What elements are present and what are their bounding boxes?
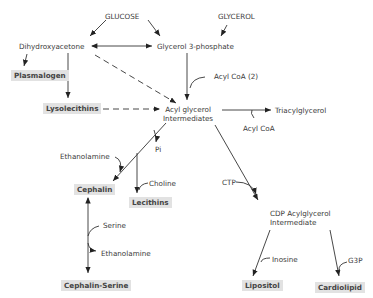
node-plasmalogen: Plasmalogen	[11, 70, 69, 81]
cofactor-acyl-coa: Acyl CoA	[243, 124, 275, 133]
node-triacylglycerol: Triacylglycerol	[275, 106, 326, 115]
node-glycerol: GLYCEROL	[218, 12, 255, 21]
node-dihydroxyacetone: Dihydroxyacetone	[19, 42, 84, 51]
cofactor-acyl-coa-2: Acyl CoA (2)	[214, 72, 258, 81]
node-glycerol-3-phosphate: Glycerol 3-phosphate	[157, 42, 234, 51]
cofactor-pi: Pi	[155, 145, 161, 154]
cofactor-choline: Choline	[149, 179, 176, 188]
node-lipositol: Lipositol	[242, 280, 283, 291]
node-lysolecithins: Lysolecithins	[43, 103, 101, 114]
node-cephalin: Cephalin	[74, 184, 115, 195]
node-cdp-acylglycerol-intermediate: CDP Acylglycerol Intermediate	[270, 209, 331, 227]
node-lecithins: Lecithins	[129, 197, 172, 208]
cofactor-ctp: CTP	[222, 178, 236, 187]
node-glucose: GLUCOSE	[105, 12, 139, 21]
node-cardiolipid: Cardiolipid	[315, 282, 365, 293]
cofactor-inosine: Inosine	[272, 255, 298, 264]
node-cephalin-serine: Cephalin-Serine	[61, 280, 131, 291]
cofactor-serine: Serine	[103, 221, 126, 230]
cofactor-ethanolamine-1: Ethanolamine	[60, 152, 110, 161]
cofactor-g3p: G3P	[348, 256, 362, 265]
node-acyl-glycerol-intermediates: Acyl glycerol Intermediates	[163, 105, 213, 123]
cofactor-ethanolamine-2: Ethanolamine	[101, 249, 151, 258]
